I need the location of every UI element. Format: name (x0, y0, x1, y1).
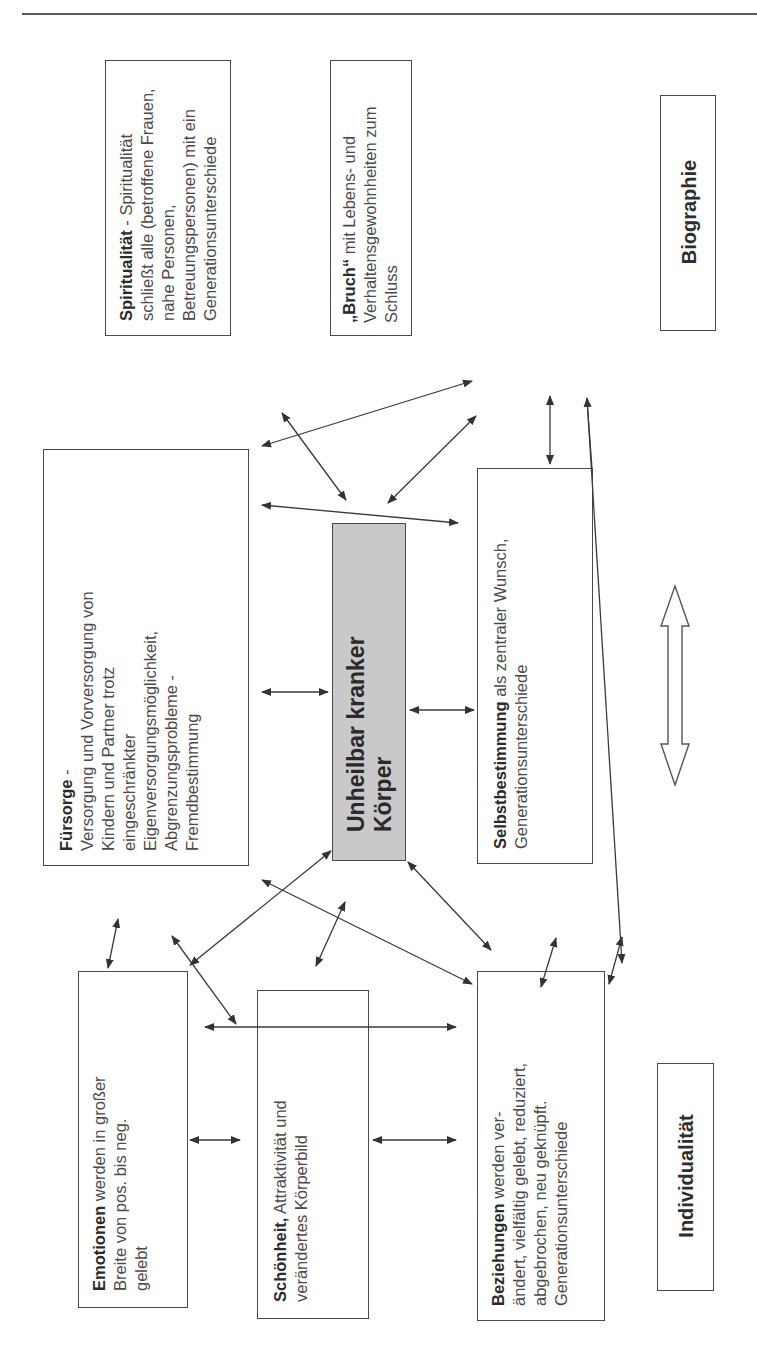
arrow-fuersorge-selbstbestimmung (262, 505, 458, 523)
arrow-bruch-beziehungen (587, 398, 622, 963)
arrow-fuersorge-emotionen (108, 919, 118, 968)
connector-arrows (0, 0, 757, 1352)
arrow-spiritualitaet-center (282, 413, 346, 500)
arrow-selbstbestimmung-beziehungen (541, 938, 556, 987)
arrow-center-beziehungen (408, 862, 491, 950)
arrow-bruch-beziehungen-2 (609, 937, 622, 984)
arrow-emotionen-schoenheit-diag (172, 936, 236, 1024)
line-selbstbestimmung-bruch (587, 400, 592, 468)
arrow-spiritualitaet-bruch (262, 381, 472, 446)
arrow-schoenheit-center (316, 902, 345, 966)
double-arrow-biographie-individualitaet (661, 586, 689, 785)
arrow-center-emotionen (190, 851, 331, 965)
arrow-bruch-center (388, 416, 476, 503)
